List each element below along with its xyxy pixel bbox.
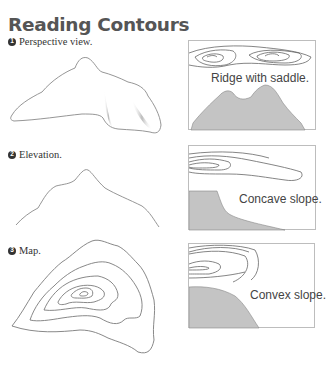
panel-caption: Concave slope. [239, 192, 322, 206]
panel-ridge-with-saddle: Ridge with saddle. [188, 40, 316, 130]
convex-diagram [189, 244, 316, 329]
left-illustrations [0, 0, 180, 367]
panel-concave-slope: Concave slope. [188, 145, 316, 230]
contour-map [12, 240, 155, 353]
panel-caption: Convex slope. [250, 288, 326, 302]
panel-caption: Ridge with saddle. [211, 71, 309, 85]
elevation-profile [16, 170, 159, 227]
concave-diagram [189, 146, 317, 231]
ridge-diagram [189, 41, 317, 131]
perspective-mountain [11, 57, 161, 132]
panel-convex-slope: Convex slope. [188, 243, 315, 328]
